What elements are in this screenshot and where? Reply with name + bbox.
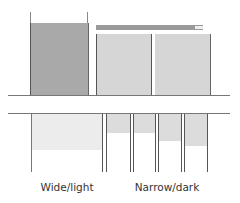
narrow-fill-3 bbox=[158, 114, 181, 141]
post-3 bbox=[130, 114, 131, 172]
post-9 bbox=[207, 114, 208, 172]
wide-dark-box bbox=[30, 23, 89, 95]
post-7 bbox=[181, 114, 182, 172]
wide-left-post bbox=[30, 12, 31, 23]
post-2 bbox=[106, 114, 107, 172]
label-wide-light: Wide/light bbox=[40, 181, 93, 193]
post-6 bbox=[158, 114, 159, 172]
narrow-top-bar bbox=[96, 25, 203, 30]
narrow-fill-1 bbox=[107, 114, 130, 133]
narrow-top-bar-end bbox=[195, 26, 203, 29]
narrow-light-box-1 bbox=[96, 34, 152, 95]
post-4 bbox=[133, 114, 134, 172]
post-8 bbox=[184, 114, 185, 172]
wide-post-left bbox=[31, 114, 32, 172]
narrow-fill-4 bbox=[184, 114, 207, 146]
wide-right-post bbox=[87, 12, 88, 23]
post-5 bbox=[155, 114, 156, 172]
label-narrow-dark: Narrow/dark bbox=[135, 181, 200, 193]
post-1 bbox=[102, 114, 103, 172]
top-baseline bbox=[8, 95, 230, 96]
narrow-fill-2 bbox=[133, 114, 155, 133]
narrow-light-box-2 bbox=[155, 34, 211, 95]
wide-light-fill bbox=[31, 114, 103, 150]
